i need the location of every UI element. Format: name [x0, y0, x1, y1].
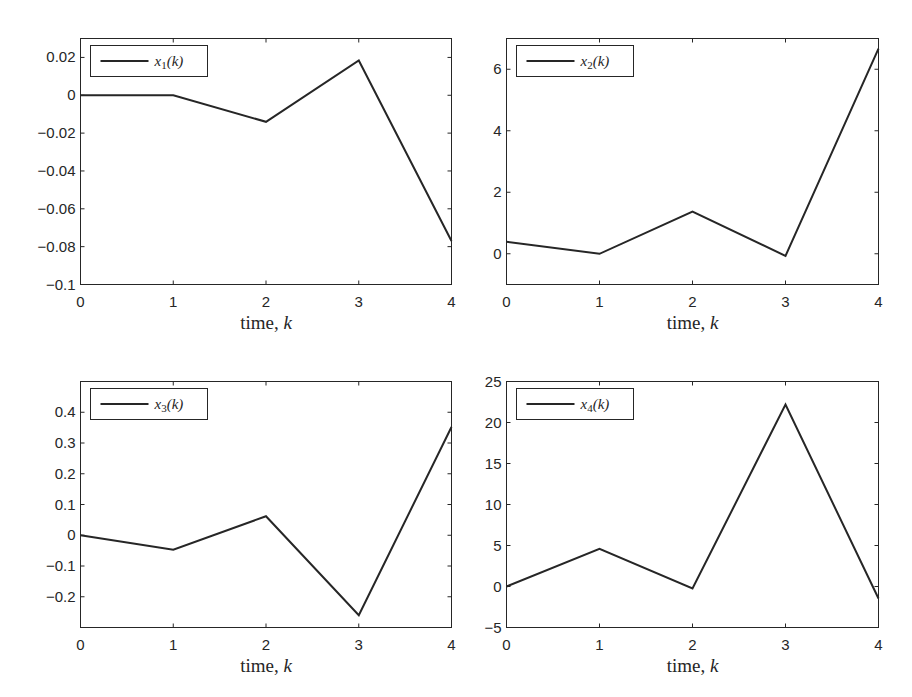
y-tick-label: 20 [485, 414, 502, 431]
y-tick-label: −0.1 [46, 557, 76, 574]
x-axis-label: time, k [240, 312, 292, 333]
x-axis-label-var: k [283, 655, 292, 676]
y-tick-label: 0.3 [55, 434, 76, 451]
y-tick-label: 0.4 [55, 403, 76, 420]
x-axis-label: time, k [667, 655, 719, 676]
x-axis-label-text: time, [667, 312, 710, 333]
y-tick-label: 5 [493, 537, 501, 554]
x-tick-label: 4 [874, 293, 882, 310]
x-tick-label: 0 [502, 636, 510, 653]
x-tick-label: 1 [169, 636, 177, 653]
figure: 01234−0.1−0.08−0.06−0.04−0.0200.02time, … [0, 0, 912, 697]
x-tick-label: 0 [502, 293, 510, 310]
y-tick-label: 6 [493, 60, 501, 77]
legend-arg: (k) [593, 396, 610, 413]
x-tick-label: 0 [76, 636, 84, 653]
y-tick-label: 15 [485, 455, 502, 472]
y-tick-label: −0.02 [38, 124, 76, 141]
x-tick-label: 4 [447, 293, 455, 310]
x-axis-label-var: k [710, 312, 719, 333]
legend: x2(k) [517, 46, 634, 77]
y-tick-label: 0 [67, 526, 75, 543]
y-tick-label: 2 [493, 183, 501, 200]
y-tick-label: 0 [493, 245, 501, 262]
legend-arg: (k) [593, 53, 610, 70]
x-axis-label-text: time, [240, 312, 283, 333]
x-tick-label: 3 [355, 293, 363, 310]
legend-label: x1(k) [154, 53, 184, 71]
subplot-2: 012340246time, kx2(k) [493, 39, 883, 333]
y-tick-label: −5 [484, 619, 501, 636]
x-tick-label: 2 [262, 293, 270, 310]
x-tick-label: 3 [355, 636, 363, 653]
x-axis-label: time, k [667, 312, 719, 333]
subplot-1: 01234−0.1−0.08−0.06−0.04−0.0200.02time, … [38, 39, 456, 333]
x-tick-label: 3 [781, 293, 789, 310]
legend: x3(k) [91, 389, 208, 420]
y-tick-label: −0.08 [38, 238, 76, 255]
y-tick-label: 0 [493, 578, 501, 595]
x-tick-label: 2 [688, 636, 696, 653]
y-tick-label: 4 [493, 122, 501, 139]
y-tick-label: 0.1 [55, 496, 76, 513]
x-tick-label: 2 [262, 636, 270, 653]
x-tick-label: 2 [688, 293, 696, 310]
x-tick-label: 4 [874, 636, 882, 653]
legend-label: x2(k) [580, 53, 610, 71]
y-tick-label: −0.04 [38, 162, 76, 179]
x-axis-label-var: k [710, 655, 719, 676]
legend: x4(k) [517, 389, 634, 420]
y-tick-label: 0.02 [46, 48, 75, 65]
y-tick-label: −0.2 [46, 588, 76, 605]
x-axis-label-var: k [283, 312, 292, 333]
y-tick-label: 0 [67, 86, 75, 103]
y-tick-label: −0.06 [38, 200, 76, 217]
x-tick-label: 3 [781, 636, 789, 653]
legend-label: x4(k) [580, 396, 610, 414]
legend-label: x3(k) [154, 396, 184, 414]
y-tick-label: 0.2 [55, 465, 76, 482]
x-tick-label: 1 [595, 636, 603, 653]
x-axis-label-text: time, [240, 655, 283, 676]
x-tick-label: 4 [447, 636, 455, 653]
y-tick-label: 10 [485, 496, 502, 513]
x-tick-label: 0 [76, 293, 84, 310]
legend: x1(k) [91, 46, 208, 77]
y-tick-label: −0.1 [46, 276, 76, 293]
x-axis-label-text: time, [667, 655, 710, 676]
subplot-3: 01234−0.2−0.100.10.20.30.4time, kx3(k) [46, 382, 456, 676]
legend-arg: (k) [167, 396, 184, 413]
subplot-4: 01234−50510152025time, kx4(k) [484, 373, 882, 676]
legend-arg: (k) [167, 53, 184, 70]
x-tick-label: 1 [169, 293, 177, 310]
y-tick-label: 25 [485, 373, 502, 390]
x-axis-label: time, k [240, 655, 292, 676]
x-tick-label: 1 [595, 293, 603, 310]
